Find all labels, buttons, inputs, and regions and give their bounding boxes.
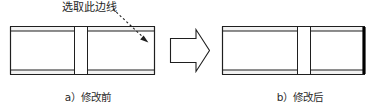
before-left-body bbox=[11, 27, 75, 75]
annotation-text: 选取此边线 bbox=[57, 0, 121, 15]
before-left-top-band bbox=[11, 27, 75, 32]
after-left-top-band bbox=[223, 27, 298, 32]
caption-after: b）修改后 bbox=[250, 89, 350, 105]
before-right-top-band bbox=[88, 27, 155, 32]
after-right-bottom-band bbox=[311, 70, 365, 75]
after-left-bottom-band bbox=[223, 70, 298, 75]
caption-before: a）修改前 bbox=[38, 89, 138, 105]
after-centre-collar bbox=[298, 27, 311, 75]
after-right-body bbox=[311, 27, 365, 75]
before-centre-collar bbox=[75, 27, 88, 75]
block-arrow-right-icon bbox=[171, 30, 210, 72]
before-right-bottom-band bbox=[88, 70, 155, 75]
before-left-bottom-band bbox=[11, 70, 75, 75]
before-right-body bbox=[88, 27, 155, 75]
after-right-top-band bbox=[311, 27, 365, 32]
panel-before-drawing bbox=[11, 27, 155, 75]
after-left-body bbox=[223, 27, 298, 75]
panel-after-drawing bbox=[223, 27, 365, 75]
